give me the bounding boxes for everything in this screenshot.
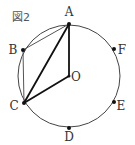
- point-a-dot: [67, 22, 71, 26]
- point-f-label: F: [118, 43, 126, 57]
- point-o-label: O: [71, 70, 81, 84]
- point-b-label: B: [9, 43, 18, 57]
- point-e-dot: [112, 100, 116, 104]
- circle-diagram: 図2 ABCDEFO: [0, 0, 135, 145]
- point-c-label: C: [9, 99, 18, 113]
- point-c-dot: [22, 101, 26, 105]
- figure-label: 図2: [12, 11, 30, 24]
- segment-AC: [24, 24, 69, 103]
- segments: [23, 24, 69, 103]
- point-d-label: D: [64, 130, 74, 144]
- point-f-dot: [112, 47, 116, 51]
- point-a-label: A: [64, 5, 74, 19]
- point-e-label: E: [117, 99, 126, 113]
- point-o-dot: [68, 75, 71, 78]
- segment-BC: [23, 50, 24, 103]
- point-b-dot: [21, 48, 25, 52]
